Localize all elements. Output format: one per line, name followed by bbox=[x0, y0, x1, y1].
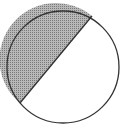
shaded-segment bbox=[0, 3, 92, 103]
circle-segment-diagram bbox=[0, 0, 125, 129]
